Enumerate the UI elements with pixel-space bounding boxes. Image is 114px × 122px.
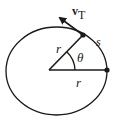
- arc-length-label: s: [96, 35, 101, 49]
- velocity-label: vT: [72, 4, 86, 22]
- point-on-circle-right: [104, 67, 109, 72]
- angle-arc: [67, 52, 75, 70]
- point-on-circle-top: [80, 32, 85, 37]
- radius-label-upper: r: [56, 41, 62, 56]
- angle-label: θ: [77, 50, 84, 65]
- radius-label-lower: r: [76, 75, 82, 90]
- circular-motion-diagram: vT r θ s r: [0, 0, 114, 122]
